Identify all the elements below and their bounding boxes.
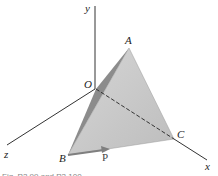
label-y: y bbox=[84, 2, 90, 14]
label-a: A bbox=[124, 34, 132, 46]
label-x: x bbox=[204, 160, 210, 172]
label-c: C bbox=[177, 128, 185, 140]
label-o: O bbox=[84, 78, 92, 90]
label-b: B bbox=[59, 152, 66, 164]
label-z: z bbox=[3, 148, 9, 160]
label-p: P bbox=[102, 151, 108, 163]
x-axis bbox=[174, 139, 207, 160]
face-abc bbox=[68, 48, 174, 155]
tetrahedron-diagram: y A O C z B P x Fig. P2.99 and P2.100 bbox=[0, 0, 218, 176]
figure-caption: Fig. P2.99 and P2.100 bbox=[2, 172, 82, 176]
